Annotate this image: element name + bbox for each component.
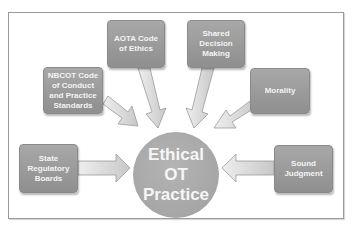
center-node-ethical-ot-practice: Ethical OT Practice bbox=[133, 132, 219, 218]
node-state-regulatory-boards: State Regulatory Boards bbox=[19, 144, 78, 193]
node-label: Sound Judgment bbox=[284, 159, 322, 179]
node-sound-judgment: Sound Judgment bbox=[274, 145, 333, 193]
arrow-sound-to-center bbox=[222, 154, 274, 182]
node-label: Morality bbox=[265, 86, 296, 96]
node-label: Shared Decision Making bbox=[199, 29, 232, 59]
node-morality: Morality bbox=[250, 68, 310, 114]
arrow-aota-to-center bbox=[138, 68, 166, 128]
node-label: NBCOT Code of Conduct and Practice Stand… bbox=[48, 71, 99, 111]
arrow-nbcot-to-center bbox=[103, 96, 138, 126]
arrow-state-to-center bbox=[78, 154, 130, 182]
node-nbcot-code: NBCOT Code of Conduct and Practice Stand… bbox=[43, 67, 103, 114]
arrow-shared-to-center bbox=[186, 68, 214, 128]
node-label: AOTA Code of Ethics bbox=[114, 34, 158, 54]
node-shared-decision-making: Shared Decision Making bbox=[187, 20, 245, 68]
node-aota-code-of-ethics: AOTA Code of Ethics bbox=[107, 20, 165, 68]
center-label: Ethical OT Practice bbox=[143, 145, 209, 205]
node-label: State Regulatory Boards bbox=[28, 154, 70, 184]
